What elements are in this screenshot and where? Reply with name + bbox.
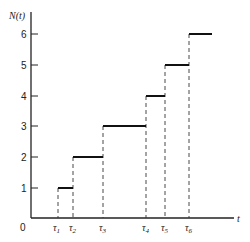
y-tick-6: 6 (21, 29, 27, 40)
origin-label: 0 (20, 222, 26, 233)
tau-3-label: τ3 (99, 222, 107, 235)
y-tick-5: 5 (21, 60, 27, 71)
y-axis-label: N(t) (8, 10, 26, 22)
tau-4-label: τ4 (142, 222, 150, 235)
counting-process-diagram: N(t) t 0 6 5 4 3 2 1 τ1 τ2 τ3 τ4 τ5 τ6 (0, 0, 250, 242)
tau-6-label: τ6 (185, 222, 193, 235)
y-tick-1: 1 (21, 183, 27, 194)
tau-5-label: τ5 (161, 222, 169, 235)
y-tick-3: 3 (21, 121, 27, 132)
y-tick-2: 2 (21, 152, 27, 163)
x-axis-label: t (237, 213, 240, 224)
tau-2-label: τ2 (69, 222, 77, 235)
y-ticks (31, 34, 38, 188)
y-tick-4: 4 (21, 91, 27, 102)
tau-1-label: τ1 (53, 222, 60, 235)
